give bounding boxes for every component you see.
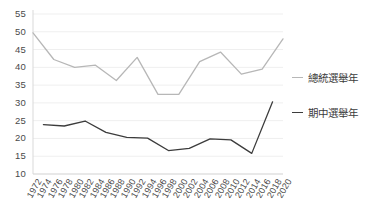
y-tick-label: 40 (4, 62, 26, 72)
legend-swatch-midterm (292, 112, 303, 113)
y-tick-label: 45 (4, 45, 26, 55)
legend-item-midterm[interactable]: 期中選舉年 (292, 105, 358, 120)
legend-item-presidential[interactable]: 總統選舉年 (292, 70, 358, 85)
y-tick-label: 50 (4, 27, 26, 37)
legend-label-midterm: 期中選舉年 (308, 105, 358, 120)
y-tick-label: 10 (4, 169, 26, 179)
legend-label-presidential: 總統選舉年 (308, 70, 358, 85)
y-tick-label: 15 (4, 151, 26, 161)
y-tick-label: 30 (4, 98, 26, 108)
series-lines-group (33, 33, 283, 154)
y-tick-label: 35 (4, 80, 26, 90)
series-line-1 (43, 102, 272, 154)
legend-swatch-presidential (292, 77, 303, 78)
y-tick-label: 20 (4, 133, 26, 143)
y-tick-label: 55 (4, 9, 26, 19)
y-tick-label: 25 (4, 116, 26, 126)
chart-container: 55504540353025201510 1972197419761978198… (0, 0, 374, 219)
